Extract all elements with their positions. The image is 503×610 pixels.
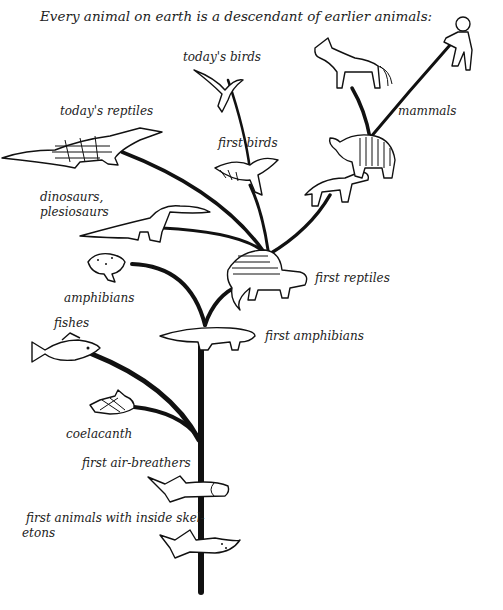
label-dinosaurs: dinosaurs, plesiosaurs	[40, 190, 109, 220]
label-todays-birds: today's birds	[183, 50, 261, 65]
label-first-skeletons-line1: first animals with inside skel-	[22, 511, 205, 526]
label-first-skeletons-line2: etons	[22, 526, 205, 541]
horse-icon	[315, 38, 392, 88]
label-dinosaurs-line2: plesiosaurs	[40, 205, 109, 220]
label-first-birds: first birds	[218, 136, 278, 151]
label-fishes: fishes	[54, 316, 89, 331]
air-breather-fish-icon	[148, 476, 229, 502]
branch-mammals-human	[370, 45, 450, 138]
branch-birds	[250, 185, 268, 250]
frog-icon	[88, 254, 125, 282]
first-reptile-icon	[228, 250, 307, 310]
label-first-air-breathers: first air-breathers	[82, 456, 191, 471]
fish-icon	[32, 333, 100, 362]
label-todays-reptiles: today's reptiles	[60, 104, 153, 119]
first-bird-icon	[215, 158, 278, 195]
human-icon	[444, 17, 472, 70]
coelacanth-icon	[90, 390, 134, 414]
branch-mammals-base	[268, 195, 330, 255]
label-amphibians: amphibians	[64, 291, 134, 306]
branch-mammals-horse	[352, 88, 370, 138]
mammoth-icon	[330, 135, 395, 178]
label-coelacanth: coelacanth	[66, 427, 132, 442]
branch-amphibians	[132, 264, 205, 325]
first-amphibian-icon	[160, 328, 255, 350]
crocodile-icon	[2, 128, 162, 168]
label-first-amphibians: first amphibians	[265, 329, 364, 344]
label-first-reptiles: first reptiles	[315, 271, 390, 286]
label-first-skeletons: first animals with inside skel- etons	[22, 511, 205, 541]
label-mammals: mammals	[398, 104, 456, 119]
label-dinosaurs-line1: dinosaurs,	[40, 190, 109, 205]
